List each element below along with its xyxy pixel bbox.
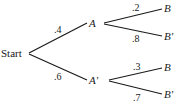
prob-b-prime-given-a-prime: .7: [133, 92, 141, 103]
probability-tree-diagram: Start .4 .6 A A' .2 .8 .3 .7 B B' B B': [0, 0, 174, 109]
prob-a-prime: .6: [54, 71, 62, 82]
node-b-prime-from-a: B': [164, 30, 174, 42]
node-b-from-a-prime: B: [164, 61, 171, 73]
prob-a: .4: [54, 24, 62, 35]
prob-b-given-a-prime: .3: [133, 61, 141, 72]
node-b-prime-from-a-prime: B': [164, 88, 174, 100]
node-b-from-a: B: [164, 2, 171, 14]
node-a-prime: A': [88, 74, 99, 86]
node-a: A: [88, 17, 96, 29]
root-label-start: Start: [1, 47, 22, 59]
prob-b-prime-given-a: .8: [132, 33, 140, 44]
prob-b-given-a: .2: [132, 2, 140, 13]
